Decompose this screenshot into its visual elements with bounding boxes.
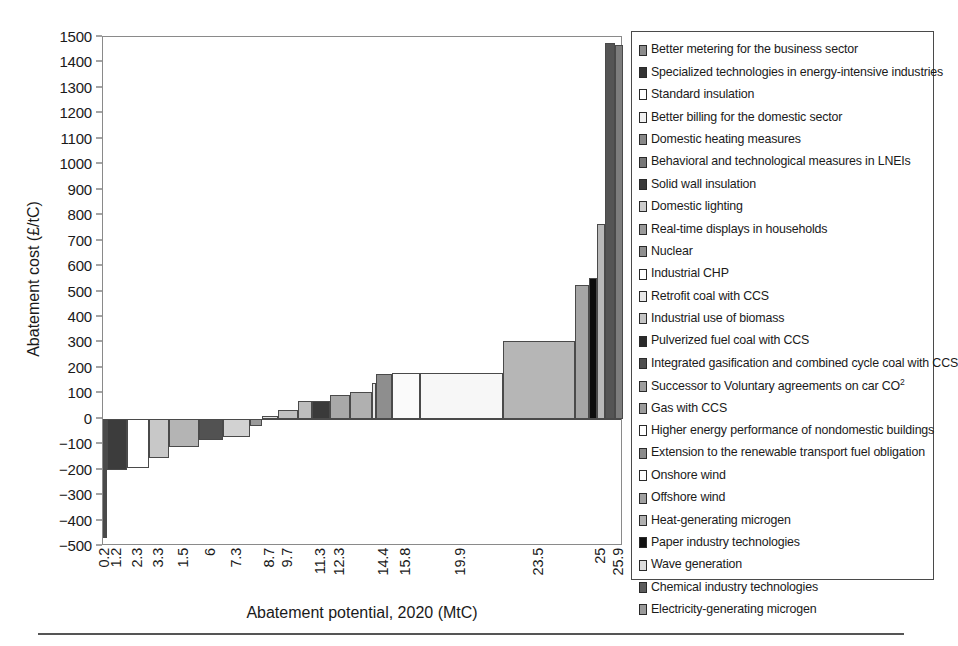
x-axis-tick-label: 11.3 — [313, 548, 328, 574]
legend-swatch-icon — [639, 179, 647, 190]
legend-item: Nuclear — [639, 241, 928, 263]
legend-swatch-icon — [639, 560, 647, 571]
legend-item: Solid wall insulation — [639, 173, 928, 195]
legend-item-label: Electricity-generating microgen — [651, 603, 816, 617]
bar — [376, 374, 392, 419]
plot-area — [102, 36, 622, 545]
footer-rule — [38, 633, 904, 635]
y-axis-tick-label: 100 — [68, 385, 92, 400]
bar — [199, 419, 223, 441]
legend-item-label: Industrial CHP — [651, 267, 729, 281]
y-axis-tick-label: 600 — [68, 258, 92, 273]
y-axis-tick-label: 1500 — [59, 29, 92, 44]
legend-swatch-icon — [639, 291, 647, 302]
legend-swatch-icon — [639, 269, 647, 280]
legend-swatch-icon — [639, 67, 647, 78]
bar-series — [103, 37, 621, 544]
bar — [597, 224, 605, 419]
legend-swatch-icon — [639, 448, 647, 459]
x-axis-tick-label: 14.4 — [376, 548, 391, 575]
legend-item-label: Onshore wind — [651, 469, 726, 483]
x-axis-tick-label: 6 — [203, 548, 218, 556]
y-axis-tick-label: −100 — [59, 436, 92, 451]
legend-swatch-icon — [639, 246, 647, 257]
legend-item-label: Integrated gasification and combined cyc… — [651, 357, 958, 371]
y-axis-tick-label: 900 — [68, 181, 92, 196]
y-axis-tick-label: 1200 — [59, 105, 92, 120]
legend-swatch-icon — [639, 470, 647, 481]
x-axis-tick-label: 12.3 — [332, 548, 347, 575]
y-axis-tick-label: 300 — [68, 334, 92, 349]
legend-swatch-icon — [639, 313, 647, 324]
legend-item: Extension to the renewable transport fue… — [639, 442, 928, 464]
legend-item: Industrial use of biomass — [639, 308, 928, 330]
legend-item-label: Higher energy performance of nondomestic… — [651, 424, 934, 438]
legend-swatch-icon — [639, 134, 647, 145]
legend-item: Paper industry technologies — [639, 532, 928, 554]
y-axis-tick-label: −500 — [59, 538, 92, 553]
y-axis-tick-label: −200 — [59, 461, 92, 476]
legend: Better metering for the business sectorS… — [631, 31, 934, 580]
x-axis-tick-label: 15.8 — [398, 548, 413, 575]
y-axis-tick-label: 1400 — [59, 54, 92, 69]
bar — [298, 401, 312, 419]
bar — [149, 419, 169, 458]
legend-swatch-icon — [639, 336, 647, 347]
bar — [250, 419, 262, 427]
legend-swatch-icon — [639, 201, 647, 212]
legend-item: Gas with CCS — [639, 397, 928, 419]
legend-item-label: Extension to the renewable transport fue… — [651, 446, 925, 460]
legend-item: Successor to Voluntary agreements on car… — [639, 375, 928, 397]
legend-item-label: Gas with CCS — [651, 402, 727, 416]
bar — [503, 341, 575, 419]
legend-item: Standard insulation — [639, 84, 928, 106]
legend-swatch-icon — [639, 112, 647, 123]
x-axis-tick-label: 9.7 — [280, 548, 295, 568]
legend-swatch-icon — [639, 604, 647, 615]
legend-item: Better billing for the domestic sector — [639, 106, 928, 128]
legend-swatch-icon — [639, 381, 647, 392]
legend-item-label: Wave generation — [651, 558, 742, 572]
bar — [589, 278, 597, 419]
legend-swatch-icon — [639, 537, 647, 548]
legend-item: Domestic lighting — [639, 196, 928, 218]
y-axis-tick-label: 1300 — [59, 79, 92, 94]
x-axis-tick-label: 1.5 — [176, 548, 191, 568]
legend-item: Offshore wind — [639, 487, 928, 509]
legend-item: Retrofit coal with CCS — [639, 285, 928, 307]
legend-item-label: Real-time displays in households — [651, 223, 827, 237]
legend-item-label: Better metering for the business sector — [651, 43, 858, 57]
y-axis-tick-label: 200 — [68, 359, 92, 374]
y-axis-title: Abatement cost (£/tC) — [25, 69, 43, 489]
bar — [312, 401, 330, 419]
x-axis: 0.21.22.33.31.567.38.79.711.312.314.415.… — [102, 546, 622, 608]
y-axis-tick-label: −400 — [59, 512, 92, 527]
x-axis-tick-label: 1.2 — [109, 548, 124, 568]
legend-item-label: Pulverized fuel coal with CCS — [651, 334, 809, 348]
bar — [605, 43, 615, 418]
bar — [127, 419, 149, 469]
bar — [330, 395, 350, 419]
x-axis-tick-label: 19.9 — [453, 548, 468, 575]
legend-item: Specialized technologies in energy-inten… — [639, 61, 928, 83]
legend-item: Industrial CHP — [639, 263, 928, 285]
legend-item-label: Behavioral and technological measures in… — [651, 155, 911, 169]
legend-item-label: Heat-generating microgen — [651, 514, 791, 528]
legend-item-label: Nuclear — [651, 245, 693, 259]
x-axis-tick-label: 3.3 — [151, 548, 166, 568]
legend-item-label: Offshore wind — [651, 491, 725, 505]
legend-item-label: Better billing for the domestic sector — [651, 111, 842, 125]
y-axis-tick-label: 700 — [68, 232, 92, 247]
y-axis-tick-label: 1100 — [61, 130, 92, 145]
y-axis-tick-label: 500 — [68, 283, 92, 298]
y-axis-tick-label: 800 — [68, 207, 92, 222]
bar — [350, 392, 372, 419]
legend-item: Higher energy performance of nondomestic… — [639, 420, 928, 442]
x-axis-tick-label: 2.3 — [130, 548, 145, 568]
y-axis-tick-label: 1000 — [59, 156, 92, 171]
legend-swatch-icon — [639, 582, 647, 593]
legend-swatch-icon — [639, 403, 647, 414]
x-axis-tick-label: 25 — [593, 548, 608, 564]
x-axis-tick-label: 7.3 — [229, 548, 244, 568]
bar — [575, 285, 589, 419]
